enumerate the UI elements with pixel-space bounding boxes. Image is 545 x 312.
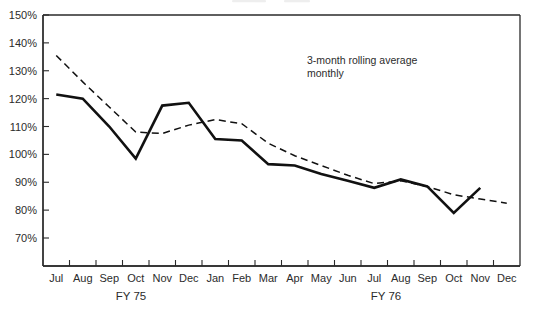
x-tick-label: Nov <box>470 272 490 284</box>
x-tick-label: Aug <box>73 272 93 284</box>
x-tick-label: Apr <box>286 272 303 284</box>
y-tick-label: 70% <box>15 232 37 244</box>
x-tick-label: Sep <box>99 272 119 284</box>
chart-container: 150%140%130%120%110%100%90%80%70% JulAug… <box>0 0 545 312</box>
y-tick-label: 150% <box>9 9 37 21</box>
x-tick-label: Aug <box>391 272 411 284</box>
x-tick-label: Dec <box>497 272 517 284</box>
x-tick-label: Jul <box>367 272 381 284</box>
x-tick-label: May <box>311 272 332 284</box>
y-tick-label: 130% <box>9 65 37 77</box>
y-tick-label: 140% <box>9 37 37 49</box>
fiscal-year-label-fy75: FY 75 <box>116 290 146 302</box>
y-tick-label: 110% <box>10 121 38 133</box>
x-tick-label: Jun <box>339 272 357 284</box>
x-tick-label: Nov <box>152 272 172 284</box>
annotation-rolling-average-label: 3-month rolling average <box>307 54 417 66</box>
annotation-monthly-label: monthly <box>307 67 345 79</box>
x-tick-label: Oct <box>127 272 144 284</box>
y-tick-label: 80% <box>15 204 37 216</box>
chart-background <box>0 0 545 312</box>
y-tick-label: 90% <box>15 176 37 188</box>
y-tick-label: 100% <box>9 148 37 160</box>
x-tick-label: Dec <box>179 272 199 284</box>
x-tick-label: Mar <box>259 272 278 284</box>
fiscal-year-label-fy76: FY 76 <box>371 290 401 302</box>
x-tick-label: Jan <box>206 272 224 284</box>
line-chart: 150%140%130%120%110%100%90%80%70% JulAug… <box>0 0 545 312</box>
x-tick-label: Sep <box>417 272 437 284</box>
y-tick-label: 120% <box>9 93 37 105</box>
x-tick-label: Oct <box>445 272 462 284</box>
x-tick-label: Feb <box>232 272 251 284</box>
x-tick-label: Jul <box>49 272 63 284</box>
